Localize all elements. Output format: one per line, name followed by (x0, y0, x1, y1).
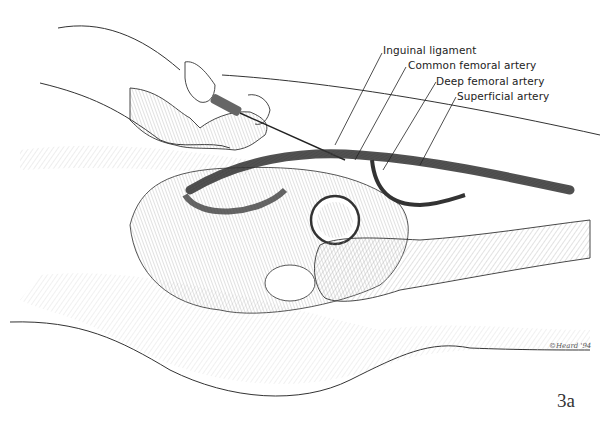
label-superficial-artery: Superficial artery (457, 90, 549, 102)
syringe-hub (210, 93, 243, 117)
artist-signature: ©Heard '94 (549, 342, 591, 350)
obturator-foramen (265, 265, 315, 301)
label-deep-femoral-artery: Deep femoral artery (436, 75, 545, 87)
figure-number: 3a (557, 390, 575, 412)
label-common-femoral-artery: Common femoral artery (408, 59, 536, 71)
femur (311, 196, 590, 301)
label-inguinal-ligament: Inguinal ligament (383, 44, 476, 56)
hand (130, 62, 270, 150)
